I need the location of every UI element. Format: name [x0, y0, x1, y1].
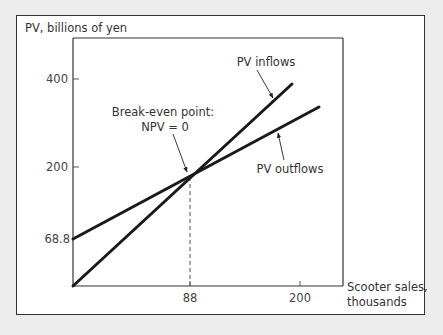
- breakeven-chart: 400 200 68.8 88 200 PV, billions of yen …: [0, 0, 443, 335]
- x-axis-title-line1: Scooter sales,: [347, 280, 428, 294]
- x-axis-title-line2: thousands: [347, 295, 407, 309]
- breakeven-arrow: [173, 134, 187, 172]
- pv-inflows-arrow: [257, 70, 273, 98]
- x-tick-label-88: 88: [183, 291, 198, 305]
- pv-inflows-label: PV inflows: [237, 55, 296, 69]
- y-tick-label-68-8: 68.8: [44, 232, 70, 246]
- x-ticks: 88 200: [183, 281, 311, 305]
- y-tick-label-400: 400: [46, 72, 68, 86]
- y-ticks: 400 200 68.8: [44, 72, 79, 246]
- breakeven-label-line2: NPV = 0: [141, 120, 189, 134]
- pv-outflows-arrow: [278, 133, 284, 160]
- pv-outflows-label: PV outflows: [257, 162, 324, 176]
- y-tick-label-200: 200: [46, 160, 68, 174]
- breakeven-label-line1: Break-even point:: [112, 105, 214, 119]
- y-axis-title: PV, billions of yen: [25, 21, 127, 35]
- x-tick-label-200: 200: [289, 291, 311, 305]
